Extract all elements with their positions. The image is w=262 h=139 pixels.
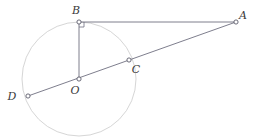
point-label-d: D <box>7 90 17 103</box>
point-marker-c <box>127 58 131 62</box>
point-label-c: C <box>132 63 141 76</box>
point-marker-b <box>77 20 81 24</box>
point-marker-d <box>26 94 30 98</box>
point-label-b: B <box>71 4 80 17</box>
geometry-canvas: B A C O D <box>0 0 262 139</box>
point-marker-a <box>234 20 238 24</box>
point-label-a: A <box>238 9 247 22</box>
segment-da <box>28 22 236 96</box>
geometry-diagram-root: B A C O D <box>0 0 262 139</box>
point-label-o: O <box>70 84 79 97</box>
point-marker-o <box>77 77 81 81</box>
